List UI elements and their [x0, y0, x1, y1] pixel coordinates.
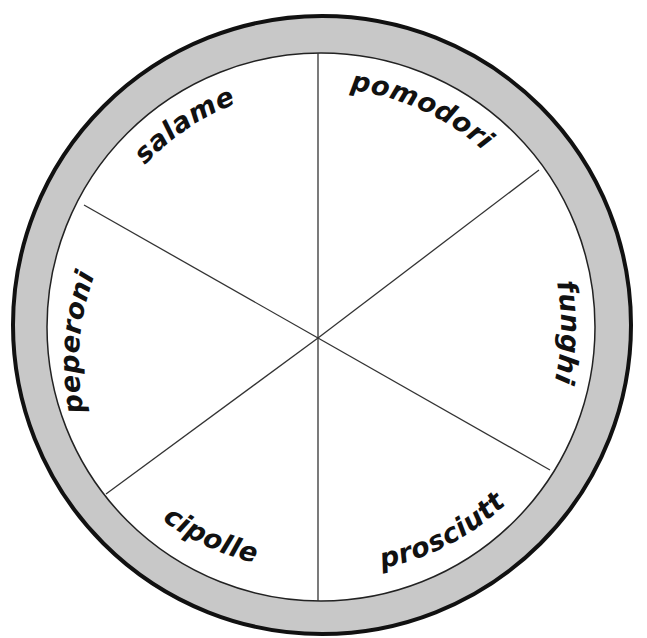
- pizza-inner: [47, 53, 595, 601]
- pizza-diagram: pomodori funghi prosciutto cipolle peper…: [0, 0, 647, 638]
